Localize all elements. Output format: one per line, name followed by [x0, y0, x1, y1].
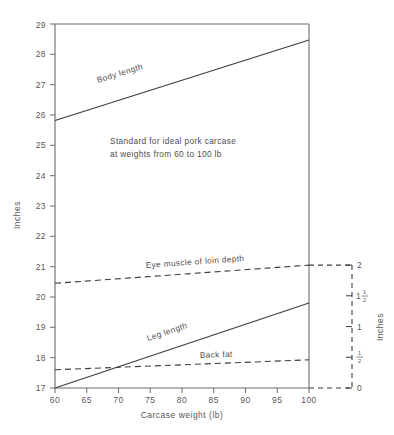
x-tick-label: 100: [301, 395, 316, 405]
y-tick-label: 21: [36, 262, 46, 272]
y-axis-title: Inches: [12, 201, 22, 229]
fraction-numerator: 1: [358, 350, 361, 356]
y-tick-label: 28: [36, 49, 46, 59]
y-tick-label: 20: [36, 292, 46, 302]
x-tick-label: 85: [209, 395, 219, 405]
y-tick-label: 29: [36, 20, 46, 30]
x-tick-label: 95: [272, 395, 282, 405]
y-tick-label: 24: [36, 171, 46, 181]
y-tick-label: 25: [36, 140, 46, 150]
fraction-numerator: 1: [363, 289, 366, 295]
x-tick-label: 80: [177, 395, 187, 405]
annotation-line-1: Standard for ideal pork carcase: [110, 136, 236, 146]
chart-figure: 17 18 19 20 21 22 23 24 25 26 27 28 29 I…: [0, 0, 394, 435]
y-tick-label: 26: [36, 110, 46, 120]
x-tick-label: 70: [113, 395, 123, 405]
x-axis-title: Carcase weight (lb): [141, 410, 224, 420]
y-tick-label: 23: [36, 201, 46, 211]
y-tick-label: 18: [36, 353, 46, 363]
whole-part: 1: [356, 291, 361, 301]
secondary-tick-label-0: 0: [357, 383, 362, 393]
secondary-tick-label-1: 1: [357, 322, 362, 332]
x-tick-label: 60: [50, 395, 60, 405]
pork-carcase-standard-chart: 17 18 19 20 21 22 23 24 25 26 27 28 29 I…: [0, 0, 394, 435]
annotation-line-2: at weights from 60 to 100 lb: [110, 149, 222, 159]
y-tick-label: 19: [36, 322, 46, 332]
fraction-denominator: 2: [363, 297, 366, 303]
secondary-tick-label-2: 2: [357, 260, 362, 270]
x-tick-label: 75: [145, 395, 155, 405]
secondary-axis-title: Inches: [375, 313, 385, 341]
y-tick-label: 17: [36, 383, 46, 393]
x-tick-label: 65: [82, 395, 92, 405]
y-tick-label: 27: [36, 80, 46, 90]
fraction-denominator: 2: [358, 358, 361, 364]
x-tick-label: 90: [240, 395, 250, 405]
series-label-back-fat: Back fat: [200, 350, 233, 360]
y-tick-label: 22: [36, 231, 46, 241]
x-axis-tick-labels: 60 65 70 75 80 85 90 95 100: [50, 395, 317, 405]
